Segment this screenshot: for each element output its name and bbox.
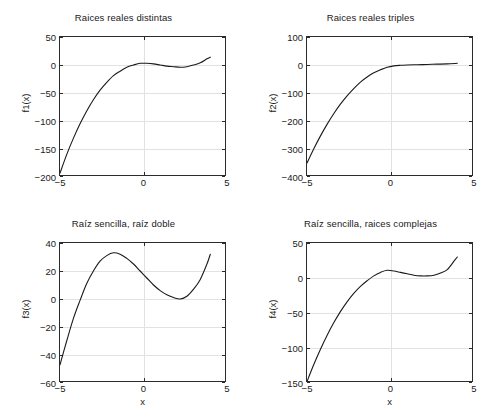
y-axis-tick-label: 0: [51, 294, 56, 305]
x-axis-tick-label: 0: [141, 177, 146, 188]
y-axis-tick-label: 20: [45, 266, 56, 277]
subplot-f4: Raíz sencilla, raices complejas 500−50−1…: [247, 206, 494, 412]
y-axis-label-f4: f4(x): [267, 300, 278, 319]
y-axis-tick-label: −150: [282, 378, 303, 389]
x-axis-tick-label: −5: [302, 383, 313, 394]
y-axis-label-f2: f2(x): [267, 94, 278, 113]
y-axis-tick-label: −40: [40, 350, 56, 361]
y-axis-tick-label: −60: [40, 378, 56, 389]
y-axis-tick-label: −300: [282, 144, 303, 155]
x-axis-tick-label: −5: [55, 383, 66, 394]
data-curve-f3: [60, 243, 225, 381]
x-axis-label-f4: x: [306, 396, 473, 407]
y-axis-tick-label: −100: [35, 116, 56, 127]
x-axis-tick-label: 5: [224, 383, 229, 394]
curve-container: [60, 243, 225, 381]
x-axis-tick-label: 5: [471, 177, 476, 188]
x-axis-tick-label: 5: [224, 177, 229, 188]
figure-canvas: Raices reales distintas 500−50−100−150−2…: [0, 0, 494, 412]
y-axis-tick-label: 0: [298, 60, 303, 71]
x-axis-tick-label: 0: [141, 383, 146, 394]
axes-f4: 500−50−100−150−505: [306, 242, 473, 382]
curve-container: [60, 37, 225, 175]
subplot-f3: Raíz sencilla, raíz doble 40200−20−40−60…: [0, 206, 247, 412]
y-axis-tick-label: 50: [292, 238, 303, 249]
subplot-f2: Raices reales triples 1000−100−200−300−4…: [247, 0, 494, 206]
y-axis-tick-label: 50: [45, 32, 56, 43]
y-axis-label-f3: f3(x): [20, 300, 31, 319]
x-axis-tick-label: 0: [388, 383, 393, 394]
x-axis-tick-label: −5: [302, 177, 313, 188]
subplot-f1: Raices reales distintas 500−50−100−150−2…: [0, 0, 247, 206]
y-axis-tick-label: −20: [40, 322, 56, 333]
x-axis-tick-label: −5: [55, 177, 66, 188]
subplot-title-f1: Raices reales distintas: [0, 12, 247, 23]
y-axis-tick-label: −150: [35, 144, 56, 155]
x-axis-tick-label: 5: [471, 383, 476, 394]
axes-f2: 1000−100−200−300−400−505: [306, 36, 473, 176]
axes-f3: 40200−20−40−60−505: [59, 242, 226, 382]
x-axis-label-f3: x: [59, 396, 226, 407]
y-axis-tick-label: −400: [282, 172, 303, 183]
x-axis-tick-label: 0: [388, 177, 393, 188]
subplot-title-f4: Raíz sencilla, raices complejas: [247, 218, 494, 229]
y-axis-tick-label: −100: [282, 88, 303, 99]
y-axis-tick-label: −50: [40, 88, 56, 99]
y-axis-label-f1: f1(x): [20, 94, 31, 113]
curve-container: [307, 243, 472, 381]
axes-f1: 500−50−100−150−200−505: [59, 36, 226, 176]
curve-container: [307, 37, 472, 175]
y-axis-tick-label: −100: [282, 343, 303, 354]
data-curve-f1: [60, 37, 225, 175]
y-axis-tick-label: −200: [282, 116, 303, 127]
data-curve-f4: [307, 243, 472, 381]
subplot-title-f2: Raices reales triples: [247, 12, 494, 23]
y-axis-tick-label: 40: [45, 238, 56, 249]
y-axis-tick-label: −50: [287, 308, 303, 319]
data-curve-f2: [307, 37, 472, 175]
y-axis-tick-label: 0: [298, 273, 303, 284]
y-axis-tick-label: 0: [51, 60, 56, 71]
y-axis-tick-label: 100: [287, 32, 303, 43]
y-axis-tick-label: −200: [35, 172, 56, 183]
subplot-title-f3: Raíz sencilla, raíz doble: [0, 218, 247, 229]
